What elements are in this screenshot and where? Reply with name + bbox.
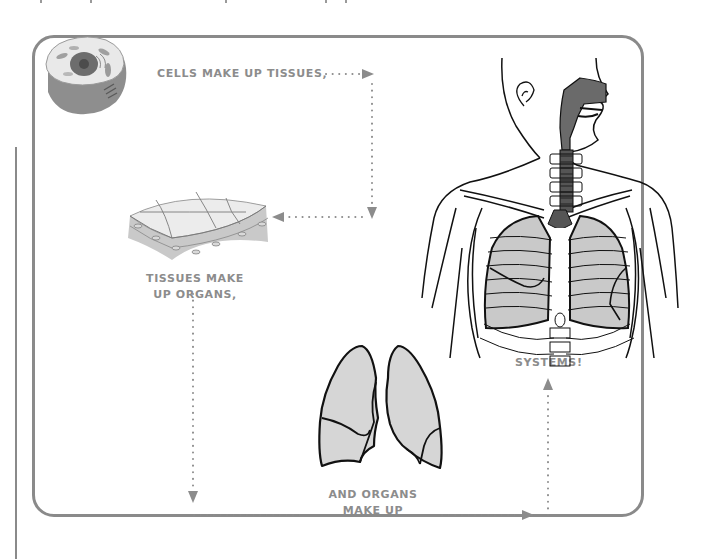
arrowhead-down-icon xyxy=(188,491,198,503)
respiratory-system-icon xyxy=(420,58,680,368)
label-tissues-make-up-organs: TISSUES MAKE UP ORGANS, xyxy=(140,271,250,303)
arrowhead-right-icon xyxy=(522,510,534,520)
arrowhead-down-icon xyxy=(367,207,377,219)
arrowhead-right-icon xyxy=(362,69,374,79)
tissue-layer-icon xyxy=(126,190,276,266)
animal-cell-icon xyxy=(38,30,130,118)
label-line: TISSUES MAKE xyxy=(140,271,250,287)
label-and-organs-make-up: AND ORGANS MAKE UP xyxy=(318,487,428,519)
label-line: AND ORGANS xyxy=(318,487,428,503)
arrowhead-up-icon xyxy=(543,378,553,390)
label-line: UP ORGANS, xyxy=(140,287,250,303)
label-line: MAKE UP xyxy=(318,503,428,519)
label-cells-make-up-tissues: CELLS MAKE UP TISSUES, xyxy=(157,66,327,82)
